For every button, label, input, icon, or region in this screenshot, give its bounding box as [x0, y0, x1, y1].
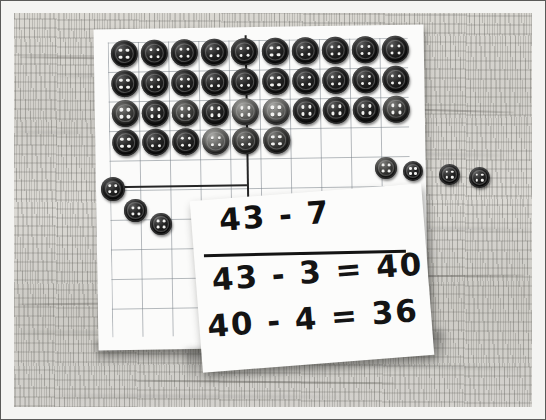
grid-button	[323, 96, 350, 123]
button-holes	[300, 75, 311, 86]
button-holes	[361, 104, 372, 115]
removed-button-bottom-left	[124, 199, 147, 222]
grid-button	[111, 70, 138, 97]
button-holes	[330, 45, 341, 56]
button-holes	[361, 74, 372, 85]
removed-button-right	[375, 157, 397, 179]
grid-button	[112, 129, 139, 156]
button-holes	[118, 48, 129, 59]
grid-button	[261, 38, 288, 65]
button-holes	[210, 136, 221, 147]
removed-button-bottom-left	[150, 213, 172, 235]
button-holes	[382, 164, 391, 173]
button-holes	[180, 136, 191, 147]
button-holes	[445, 170, 453, 178]
button-holes	[300, 46, 311, 57]
button-holes	[301, 105, 312, 116]
button-holes	[210, 106, 221, 117]
button-holes	[240, 76, 251, 87]
button-holes	[239, 47, 250, 58]
button-holes	[270, 105, 281, 116]
button-holes	[390, 44, 401, 55]
button-holes	[179, 77, 190, 88]
grid-button	[141, 69, 168, 96]
button-holes	[131, 206, 140, 215]
button-holes	[331, 104, 342, 115]
grid-button	[141, 99, 168, 126]
button-holes	[157, 220, 166, 229]
removed-button-right	[439, 164, 460, 185]
grid-button	[172, 98, 199, 125]
button-holes	[391, 103, 402, 114]
removed-button-bottom-left	[101, 177, 125, 201]
grid-button	[383, 95, 410, 122]
grid-button	[110, 40, 137, 67]
button-holes	[269, 46, 280, 57]
grid-button	[292, 97, 319, 124]
wood-grain-streak	[134, 380, 394, 384]
grid-button	[263, 127, 290, 154]
handwritten-step-2: 40 - 4 = 36	[206, 292, 420, 344]
grid-button	[322, 66, 349, 93]
button-holes	[270, 76, 281, 87]
button-holes	[209, 47, 220, 58]
button-holes	[149, 78, 160, 89]
button-holes	[475, 173, 483, 181]
button-holes	[241, 135, 252, 146]
button-holes	[120, 137, 131, 148]
button-holes	[119, 108, 130, 119]
button-holes	[391, 74, 402, 85]
grid-button	[262, 97, 289, 124]
photograph-frame: 43 - 7 43 - 3 = 40 40 - 4 = 36	[0, 0, 546, 420]
button-holes	[150, 107, 161, 118]
grid-button	[262, 67, 289, 94]
button-holes	[150, 137, 161, 148]
grid-button	[202, 98, 229, 125]
grid-button	[353, 96, 380, 123]
grid-button	[232, 98, 259, 125]
button-holes	[330, 75, 341, 86]
grid-button	[171, 69, 198, 96]
button-holes	[180, 107, 191, 118]
wood-grain-streak	[14, 131, 84, 134]
button-holes	[149, 48, 160, 59]
wood-grain-streak	[44, 394, 344, 398]
removed-button-right	[403, 161, 423, 181]
button-holes	[240, 106, 251, 117]
grid-button	[111, 99, 138, 126]
handwritten-problem: 43 - 7	[218, 193, 332, 237]
button-holes	[360, 45, 371, 56]
button-holes	[179, 48, 190, 59]
button-holes	[271, 135, 282, 146]
removed-button-right	[469, 167, 490, 188]
button-holes	[210, 77, 221, 88]
button-holes	[119, 78, 130, 89]
grid-button	[292, 67, 319, 94]
button-holes	[108, 184, 118, 194]
handwritten-note-card: 43 - 7 43 - 3 = 40 40 - 4 = 36	[190, 183, 435, 372]
button-holes	[409, 167, 417, 175]
grid-button	[142, 129, 169, 156]
